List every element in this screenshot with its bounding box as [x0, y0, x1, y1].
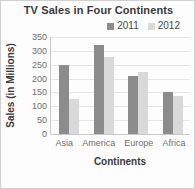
legend-swatch-icon-2011	[107, 23, 114, 30]
plot-area: 050100150200250300350	[50, 37, 190, 134]
y-axis-tick-label: 350	[32, 32, 47, 42]
bar-series-container	[52, 37, 190, 134]
bar-america-2011[interactable]	[94, 45, 104, 134]
y-axis-tick-label: 150	[32, 87, 47, 97]
x-axis-title: Continents	[50, 156, 190, 167]
bar-america-2012[interactable]	[104, 57, 114, 134]
legend-item-2011[interactable]: 2011	[107, 21, 139, 31]
bar-group	[128, 37, 148, 134]
y-axis-tick-label: 200	[32, 74, 47, 84]
bar-africa-2012[interactable]	[173, 96, 183, 134]
bar-group	[59, 37, 79, 134]
legend-item-2012[interactable]: 2012	[148, 21, 180, 31]
x-axis-tick-label: Europe	[124, 138, 153, 148]
legend-label-2012: 2012	[158, 21, 180, 31]
bar-asia-2012[interactable]	[69, 99, 79, 134]
y-axis-tick-label: 100	[32, 101, 47, 111]
bar-africa-2011[interactable]	[163, 92, 173, 134]
legend-label-2011: 2011	[117, 21, 139, 31]
y-axis-tick-label: 50	[37, 115, 47, 125]
chart-figure: TV Sales in Four Continents 2011 2012 Sa…	[0, 0, 195, 189]
y-axis-tick-label: 0	[42, 129, 47, 139]
y-axis-title: Sales (in Millions)	[3, 35, 17, 135]
gridline	[51, 134, 190, 135]
x-axis-tick-label: Asia	[56, 138, 74, 148]
bar-group	[163, 37, 183, 134]
y-axis-tick-label: 250	[32, 60, 47, 70]
x-axis-tick-label: America	[82, 138, 115, 148]
chart-legend: 2011 2012	[107, 21, 180, 31]
y-axis-tick-label: 300	[32, 46, 47, 56]
bar-asia-2011[interactable]	[59, 65, 69, 134]
chart-title: TV Sales in Four Continents	[1, 4, 195, 16]
x-axis-tick-labels: AsiaAmericaEuropeAfrica	[51, 138, 190, 148]
x-axis-tick-label: Africa	[162, 138, 185, 148]
bar-group	[94, 37, 114, 134]
legend-swatch-icon-2012	[148, 23, 155, 30]
bar-europe-2012[interactable]	[138, 72, 148, 134]
y-axis-title-text: Sales (in Millions)	[5, 43, 16, 127]
bar-europe-2011[interactable]	[128, 76, 138, 134]
